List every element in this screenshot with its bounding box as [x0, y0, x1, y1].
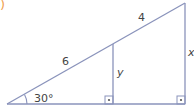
right-angle-marker-inner — [105, 96, 113, 104]
angle-arc — [25, 95, 28, 105]
label-hypotenuse-lower: 6 — [62, 56, 69, 67]
label-hypotenuse-upper: 4 — [138, 12, 145, 23]
similar-triangles-diagram: ) 6 4 y x 30° — [0, 0, 194, 108]
triangle-figure — [0, 0, 194, 108]
label-outer-leg-x: x — [188, 47, 194, 58]
right-angle-marker-outer — [177, 96, 185, 104]
label-angle: 30° — [34, 93, 54, 104]
hypotenuse — [7, 3, 185, 104]
label-inner-leg-y: y — [117, 67, 124, 78]
